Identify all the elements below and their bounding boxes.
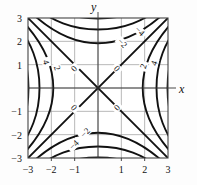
y-tick-label-2: 2 [0, 37, 22, 47]
x-tick-label-neg1: −1 [66, 165, 84, 175]
y-tick-label-neg3: −3 [0, 154, 22, 164]
x-tick-label-1: 1 [112, 165, 130, 175]
y-tick-label-1: 1 [0, 61, 22, 71]
x-tick-label-neg2: −2 [42, 165, 60, 175]
x-axis-label: x [179, 83, 184, 95]
y-axis-label: y [91, 1, 96, 13]
y-tick-label-neg1: −1 [0, 107, 22, 117]
x-tick-label-neg3: −3 [19, 165, 37, 175]
x-tick-label-3: 3 [159, 165, 177, 175]
y-tick-label-neg2: −2 [0, 131, 22, 141]
contour-plot-canvas: 0 0 0 0 −2 −4 −2 −4 2 4 2 4 [0, 0, 197, 185]
contour-plot-figure: 0 0 0 0 −2 −4 −2 −4 2 4 2 4 y x 3 [0, 0, 197, 185]
y-tick-label-3: 3 [0, 14, 22, 24]
x-tick-label-2: 2 [136, 165, 154, 175]
